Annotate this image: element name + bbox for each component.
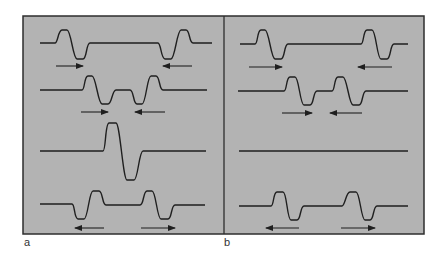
wave-diagram [0,0,443,259]
panel-label-a: a [24,236,30,248]
panel-label-b: b [224,236,230,248]
